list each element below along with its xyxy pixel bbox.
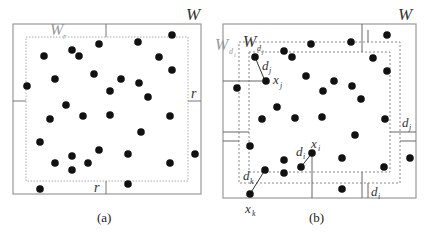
label-w-di-subsub: i xyxy=(234,52,236,58)
label-xk: x xyxy=(244,201,251,216)
label-dk-sub: k xyxy=(250,177,254,186)
label-r-bottom: r xyxy=(94,180,100,195)
window-wr-inner-box xyxy=(26,37,188,181)
label-w-outer: W xyxy=(186,5,202,24)
label-margin-dj: d xyxy=(402,115,409,130)
panel-a: W W r r r (a) xyxy=(13,5,202,225)
label-r-right: r xyxy=(191,86,197,101)
caption-b: (b) xyxy=(309,210,324,225)
label-dk: d xyxy=(243,168,250,183)
label-w-outer-b: W xyxy=(398,5,414,24)
points-b xyxy=(233,31,414,198)
label-xk-sub: k xyxy=(252,209,256,218)
window-w-outer-box xyxy=(13,24,201,194)
points-a xyxy=(23,31,199,193)
label-xi: x xyxy=(310,136,317,151)
label-xj: x xyxy=(272,72,279,87)
label-xj-sub: j xyxy=(279,81,283,90)
label-xi-sub: i xyxy=(318,144,320,153)
label-w-di: W xyxy=(215,36,230,53)
label-di-sub: i xyxy=(303,152,305,161)
diagram-canvas: W W r r r (a) xyxy=(0,0,433,246)
label-w-dj: W xyxy=(243,33,258,50)
label-margin-dj-sub: j xyxy=(408,123,412,132)
caption-a: (a) xyxy=(97,210,111,225)
label-margin-di-sub: i xyxy=(378,192,380,201)
label-dj-sub: j xyxy=(268,66,272,75)
window-w-outer-box-b xyxy=(223,24,416,198)
label-margin-di: d xyxy=(371,184,378,199)
label-w-dj-subsub: j xyxy=(261,49,264,55)
panel-b: W W d i W d j d j x j d i x i d k x k d … xyxy=(215,5,416,225)
label-dj: d xyxy=(262,58,269,73)
label-di: d xyxy=(296,144,303,159)
